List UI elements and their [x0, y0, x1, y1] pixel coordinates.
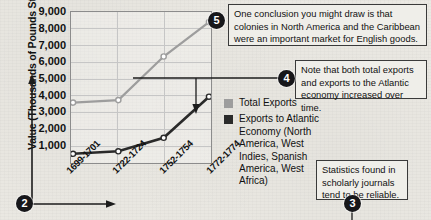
callout-badge-2[interactable]: 2 — [16, 195, 33, 212]
callout-badge-3[interactable]: 3 — [344, 195, 361, 212]
callout-box-4: Note that both total exports and exports… — [295, 60, 427, 99]
callout-text-4: Note that both total exports and exports… — [301, 64, 421, 114]
callout-badge-5[interactable]: 5 — [208, 12, 225, 29]
callout-box-5: One conclusion you might draw is that co… — [228, 4, 427, 46]
callout-box-3: Statistics found in scholarly journals t… — [316, 160, 408, 200]
legend-swatch-total-exports-icon — [224, 99, 233, 108]
callout-badge-4[interactable]: 4 — [278, 70, 295, 87]
callout-text-3: Statistics found in scholarly journals t… — [322, 164, 402, 202]
legend-swatch-atlantic-exports-icon — [224, 115, 233, 124]
callout-text-5: One conclusion you might draw is that co… — [234, 8, 421, 46]
export-value-line-chart-figure: Value (Thousands of Pounds Sterling) 9,0… — [0, 0, 431, 220]
legend-label-total-exports: Total Exports — [239, 97, 297, 109]
